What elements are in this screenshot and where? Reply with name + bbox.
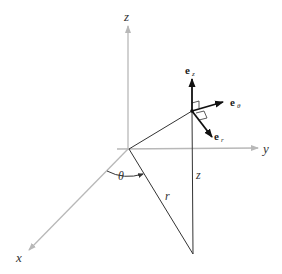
svg-text:e: e	[230, 96, 235, 108]
e-theta-label: e θ	[230, 96, 241, 110]
e-z-label: e z	[185, 64, 195, 78]
svg-text:r: r	[221, 136, 224, 144]
x-axis-label: x	[15, 250, 22, 265]
origin-to-point-line	[129, 111, 192, 149]
svg-text:e: e	[185, 64, 190, 76]
theta-label: θ	[118, 169, 124, 183]
svg-text:e: e	[214, 130, 219, 142]
svg-text:θ: θ	[237, 102, 241, 110]
geometry-lines	[129, 111, 193, 254]
z-axis-label: z	[123, 9, 129, 24]
radius-line	[129, 149, 193, 254]
height-label: z	[195, 168, 201, 182]
e-r-label: e r	[214, 130, 224, 144]
unit-vectors	[190, 79, 223, 137]
y-axis-label: y	[261, 141, 269, 156]
radius-label: r	[165, 189, 170, 203]
cylindrical-coordinates-diagram: z y x θ r z e z e θ e r	[0, 0, 282, 274]
x-axis	[29, 149, 128, 250]
e-r-vector	[192, 111, 212, 137]
height-line	[192, 111, 193, 254]
y-axis	[117, 148, 258, 149]
point-marker	[190, 109, 194, 113]
e-theta-vector	[192, 102, 223, 111]
svg-text:z: z	[191, 70, 195, 78]
theta-arc	[107, 171, 143, 176]
